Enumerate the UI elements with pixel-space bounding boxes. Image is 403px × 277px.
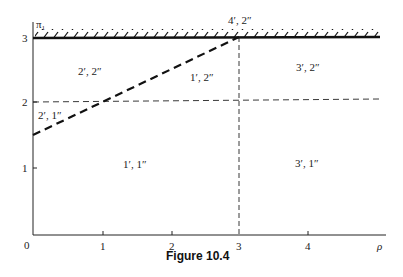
point-label-4-2: 4′, 2″ [228,14,252,26]
region-label-1-1: 1′, 1″ [123,158,147,170]
y-tick-label-1: 1 [22,162,28,174]
region-label-1-2: 1′, 2″ [190,71,214,83]
x-tick-label-3: 3 [236,240,242,252]
y-tick-label-3: 3 [22,32,28,44]
region-label-2-1: 2′, 1″ [38,109,62,121]
region-label-3-2: 3′, 2″ [296,61,320,73]
upper-bound-line [33,37,380,38]
origin-label: 0 [24,239,30,251]
y-tick-label-2: 2 [22,96,28,108]
region-label-2-2: 2′, 2″ [78,65,102,77]
horizontal-dashed-line [33,99,380,102]
x-tick-label-4: 4 [305,240,311,252]
figure-canvas: 0 1 2 3 4 ρ 1 2 3 π₁ 2′, 2″ 1′, 2″ 3′, 2… [0,0,403,277]
region-label-3-1: 3′, 1″ [295,157,319,169]
diagonal-dashed-line [33,37,239,135]
figure-caption: Figure 10.4 [166,249,230,263]
x-tick-label-1: 1 [100,240,106,252]
y-axis-label: π₁ [36,18,46,30]
x-axis-label: ρ [376,240,382,252]
